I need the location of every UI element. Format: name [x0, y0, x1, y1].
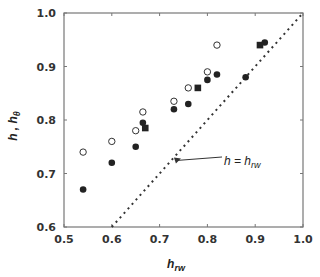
annotation: h = hrw [174, 154, 261, 170]
filled-square-point [195, 85, 202, 92]
filled-circle-point [185, 101, 192, 108]
x-tick-label: 0.5 [54, 233, 74, 246]
y-tick-label: 0.8 [37, 114, 57, 127]
open-circle-point [204, 69, 210, 75]
filled-circle-point [171, 106, 178, 113]
filled-circle-point [204, 77, 211, 84]
open-circle-point [109, 138, 115, 144]
x-tick-label: 0.7 [150, 233, 170, 246]
open-circle-point [185, 85, 191, 91]
y-tick-label: 0.9 [37, 61, 57, 74]
x-tick-label: 1.0 [293, 233, 313, 246]
filled-circle-point [242, 74, 249, 81]
filled-square-point [142, 125, 149, 132]
identity-dotted-line [112, 13, 303, 227]
filled-circle-point [80, 186, 87, 193]
open-circle-point [140, 109, 146, 115]
axis-ticks: 0.50.60.70.80.91.00.60.70.80.91.0 [37, 7, 314, 246]
identity-line [112, 13, 303, 227]
scatter-chart: 0.50.60.70.80.91.00.60.70.80.91.0 h = hr… [0, 0, 320, 277]
filled-square-point [257, 42, 264, 49]
open-circle-point [171, 98, 177, 104]
x-tick-label: 0.8 [198, 233, 218, 246]
x-tick-label: 0.9 [245, 233, 265, 246]
x-tick-label: 0.6 [102, 233, 122, 246]
y-axis-label: h , hθ [6, 111, 22, 141]
open-circle-point [133, 128, 139, 134]
y-tick-label: 0.6 [37, 221, 57, 234]
annotation-arrow [177, 157, 222, 160]
open-circle-point [80, 149, 86, 155]
filled-circle-point [109, 160, 116, 167]
plot-frame [64, 13, 303, 227]
filled-circle-point [214, 71, 221, 78]
y-tick-label: 0.7 [37, 168, 57, 181]
open-circle-point [214, 42, 220, 48]
plot-border [64, 13, 303, 227]
annotation-text: h = hrw [224, 154, 261, 170]
filled-circle-point [132, 143, 139, 150]
y-tick-label: 1.0 [37, 7, 57, 20]
x-axis-label: hrw [167, 257, 186, 273]
data-points [80, 39, 268, 193]
